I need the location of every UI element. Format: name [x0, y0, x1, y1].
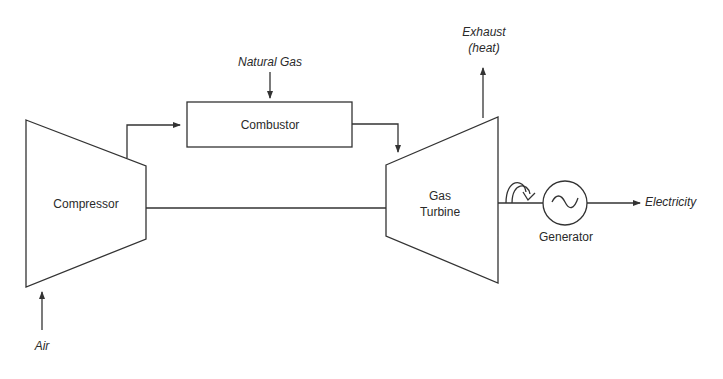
turbine-label-line1: Gas: [420, 188, 460, 204]
electricity-label: Electricity: [645, 195, 696, 209]
generator-label: Generator: [539, 229, 593, 245]
exhaust-label-line1: Exhaust: [462, 24, 505, 40]
combustor-label: Combustor: [241, 117, 300, 133]
ac-wave-icon: [552, 196, 578, 208]
diagram-canvas: [0, 0, 723, 379]
turbine-label: Gas Turbine: [420, 188, 460, 220]
compressor-to-combustor-arrow: [127, 125, 180, 158]
turbine-label-line2: Turbine: [420, 204, 460, 220]
exhaust-label-line2: (heat): [462, 40, 505, 56]
natural-gas-label: Natural Gas: [238, 54, 302, 70]
air-label: Air: [35, 338, 50, 354]
rotation-icon: [506, 183, 535, 203]
compressor-label: Compressor: [53, 196, 118, 212]
combustor-to-turbine-arrow: [352, 124, 398, 152]
exhaust-label: Exhaust (heat): [462, 24, 505, 56]
